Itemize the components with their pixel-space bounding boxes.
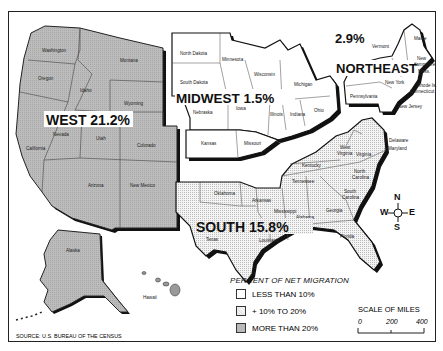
state-label-north-dakota: North Dakota [180, 51, 208, 56]
state-label-south-carolina-2: Carolina [342, 195, 360, 200]
state-label-california: California [26, 146, 46, 151]
state-label-kansas-visible: Kansas [201, 141, 217, 146]
legend-label: + 10% TO 20% [252, 307, 306, 316]
state-label-iowa: Iowa [236, 106, 246, 111]
state-label-florida: Florida [340, 234, 354, 239]
state-label-west-virginia-1: West [340, 145, 351, 150]
state-label-new-hampshire-1: New [417, 56, 427, 61]
us-map: Washington Oregon California Idaho Nevad… [0, 0, 443, 351]
region-label-northeast-pct: 2.9% [335, 31, 365, 46]
state-label-delaware: Delaware [389, 138, 409, 143]
legend-title: PERCENT OF NET MIGRATION [230, 276, 349, 285]
state-label-oregon: Oregon [38, 76, 54, 81]
state-label-tennessee: Tennessee [292, 179, 315, 184]
state-label-south-carolina-1: South [344, 189, 356, 194]
state-label-south-dakota: South Dakota [180, 80, 208, 85]
state-label-oklahoma: Oklahoma [214, 191, 235, 196]
state-label-arizona: Arizona [88, 183, 104, 188]
state-label-vermont: Vermont [372, 44, 390, 49]
region-midwest: North Dakota South Dakota Nebraska Kansa… [172, 33, 338, 140]
state-label-wisconsin: Wisconsin [254, 72, 275, 77]
region-west: Washington Oregon California Idaho Nevad… [16, 26, 177, 230]
state-label-georgia: Georgia [326, 208, 343, 213]
legend-item-less-than-10: LESS THAN 10% [236, 289, 315, 299]
state-label-illinois: Illinois [270, 112, 283, 117]
state-label-wyoming: Wyoming [124, 101, 144, 106]
state-label-north-carolina-1: North [354, 169, 366, 174]
scale-tick-200: 200 [386, 318, 398, 325]
state-label-missouri-visible: Missouri [244, 141, 261, 146]
compass-s: S [394, 222, 400, 232]
state-label-new-jersey: New Jersey [398, 104, 423, 109]
state-label-idaho: Idaho [80, 88, 92, 93]
region-label-west: WEST 21.2% [46, 112, 131, 128]
state-label-nevada: Nevada [53, 132, 69, 137]
source-note: SOURCE: U.S. BUREAU OF THE CENSUS [16, 333, 122, 339]
legend-swatch-white [236, 289, 246, 299]
state-label-minnesota: Minnesota [222, 57, 244, 62]
compass-e: E [409, 207, 415, 217]
compass-n: N [394, 192, 401, 202]
compass-rose: N S W E [380, 192, 416, 232]
state-label-maryland: Maryland [388, 146, 407, 151]
scale-tick-400: 400 [416, 318, 428, 325]
state-label-mass: Mass. [418, 69, 430, 74]
state-label-virginia: Virginia [356, 152, 372, 157]
legend-label: MORE THAN 20% [252, 324, 318, 333]
legend-swatch-dotted [236, 306, 246, 316]
state-hawaii [142, 272, 180, 297]
state-label-alaska: Alaska [66, 248, 80, 253]
state-label-kentucky: Kentucky [302, 163, 322, 168]
legend-item-10-to-20: + 10% TO 20% [236, 306, 306, 316]
state-label-utah: Utah [96, 136, 106, 141]
scale-title: SCALE OF MILES [358, 305, 420, 314]
state-label-montana: Montana [120, 58, 138, 63]
state-label-rhode-island: Rhode Is. [417, 83, 437, 88]
state-label-indiana: Indiana [290, 112, 306, 117]
state-label-colorado: Colorado [137, 143, 156, 148]
state-label-ohio: Ohio [314, 108, 324, 113]
region-label-northeast-name: NORTHEAST [336, 61, 417, 76]
state-label-michigan: Michigan [294, 82, 313, 87]
state-label-nebraska: Nebraska [193, 110, 213, 115]
state-label-new-mexico: New Mexico [130, 183, 155, 188]
region-label-midwest: MIDWEST 1.5% [176, 91, 274, 106]
legend-swatch-grey [236, 323, 246, 333]
state-label-north-carolina-2: Carolina [352, 175, 370, 180]
state-label-washington: Washington [42, 48, 67, 53]
scale-tick-0: 0 [358, 318, 362, 325]
compass-w: W [380, 207, 389, 217]
state-label-mississippi: Mississippi [274, 209, 296, 214]
state-label-new-york: New York [385, 80, 405, 85]
state-alaska [40, 230, 128, 312]
state-label-hawaii: Hawaii [143, 295, 157, 300]
state-label-arkansas: Arkansas [252, 198, 272, 203]
state-label-connecticut: Connecticut [410, 89, 435, 94]
state-label-maine: Maine [414, 36, 427, 41]
state-label-texas: Texas [206, 237, 219, 242]
region-label-south: SOUTH 15.8% [196, 219, 289, 235]
state-label-louisiana: Louisiana [259, 238, 279, 243]
legend-label: LESS THAN 10% [252, 290, 315, 299]
legend-item-more-than-20: MORE THAN 20% [236, 323, 318, 333]
state-label-pennsylvania: Pennsylvania [350, 94, 378, 99]
state-label-west-virginia-2: Virginia [337, 151, 353, 156]
